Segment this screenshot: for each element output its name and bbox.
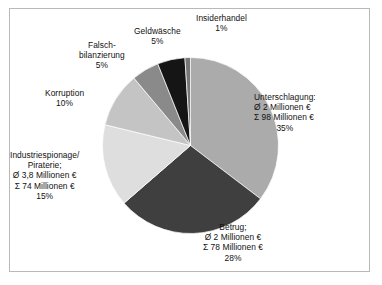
- pie-label-unterschlagung-name: Unterschlagung:: [254, 92, 316, 102]
- pie-label-korruption: Korruption 10%: [45, 88, 84, 108]
- pie-label-betrug: Betrug; Ø 2 Millionen € Σ 78 Millionen €…: [203, 222, 263, 263]
- pie-label-falschbilanzierung-name-2: bilanzierung: [79, 50, 125, 60]
- pie-chart-figure: [0, 0, 382, 285]
- pie-label-industriespionage-name-2: Piraterie;: [10, 160, 79, 170]
- pie-label-betrug-name: Betrug;: [203, 222, 263, 232]
- pie-label-falschbilanzierung-name-1: Falsch-: [79, 40, 125, 50]
- pie-label-unterschlagung-percent: 35%: [254, 123, 316, 133]
- screenshot-root: Insiderhandel 1% Geldwäsche 5% Falsch- b…: [0, 0, 382, 285]
- pie-label-unterschlagung-sum: Σ 98 Millionen €: [254, 112, 316, 122]
- pie-label-falschbilanzierung-percent: 5%: [79, 60, 125, 70]
- pie-label-industriespionage-percent: 15%: [10, 191, 79, 201]
- pie-label-insiderhandel-percent: 1%: [196, 23, 247, 33]
- pie-label-unterschlagung-mean: Ø 2 Millionen €: [254, 102, 316, 112]
- pie-label-insiderhandel: Insiderhandel 1%: [196, 13, 247, 33]
- pie-label-betrug-percent: 28%: [203, 253, 263, 263]
- pie-slice-group: [102, 58, 278, 234]
- pie-label-unterschlagung: Unterschlagung: Ø 2 Millionen € Σ 98 Mil…: [254, 92, 316, 133]
- pie-label-industriespionage-name-1: Industriespionage/: [10, 150, 79, 160]
- pie-label-industriespionage-mean: Ø 3,8 Millionen €: [10, 170, 79, 180]
- pie-label-geldwaesche: Geldwäsche 5%: [134, 26, 181, 46]
- pie-label-betrug-mean: Ø 2 Millionen €: [203, 232, 263, 242]
- pie-label-geldwaesche-percent: 5%: [134, 36, 181, 46]
- pie-label-korruption-name: Korruption: [45, 88, 84, 98]
- pie-label-korruption-percent: 10%: [45, 98, 84, 108]
- pie-label-insiderhandel-name: Insiderhandel: [196, 13, 247, 23]
- pie-label-falschbilanzierung: Falsch- bilanzierung 5%: [79, 40, 125, 71]
- pie-label-industriespionage: Industriespionage/ Piraterie; Ø 3,8 Mill…: [10, 150, 79, 201]
- pie-label-geldwaesche-name: Geldwäsche: [134, 26, 181, 36]
- pie-label-industriespionage-sum: Σ 74 Millionen €: [10, 181, 79, 191]
- pie-label-betrug-sum: Σ 78 Millionen €: [203, 242, 263, 252]
